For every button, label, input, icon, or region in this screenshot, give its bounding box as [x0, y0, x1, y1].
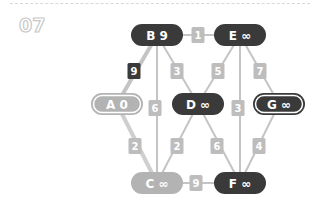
- node-f[interactable]: F ∞: [214, 172, 266, 194]
- edge-weight-a-b: 9: [128, 63, 141, 79]
- svg-text:3: 3: [174, 66, 181, 77]
- svg-text:C ∞: C ∞: [146, 177, 169, 191]
- node-c[interactable]: C ∞: [131, 172, 183, 194]
- svg-text:2: 2: [174, 141, 181, 152]
- edge-weight-b-d: 3: [171, 63, 184, 79]
- svg-text:3: 3: [235, 103, 242, 114]
- svg-text:5: 5: [215, 66, 222, 77]
- edge-weight-d-c: 2: [171, 138, 184, 154]
- edge-weight-e-d: 5: [212, 63, 225, 79]
- edge-weight-d-f: 6: [211, 138, 224, 154]
- edge-weight-b-c: 6: [149, 100, 162, 116]
- graph-nodes: B 9E ∞A 0D ∞G ∞C ∞F ∞: [91, 24, 305, 194]
- node-g[interactable]: G ∞: [253, 93, 305, 115]
- svg-text:1: 1: [195, 30, 202, 41]
- svg-text:4: 4: [256, 141, 263, 152]
- node-a[interactable]: A 0: [91, 93, 143, 115]
- edge-weight-a-c: 2: [129, 138, 142, 154]
- edge-weight-g-f: 4: [253, 138, 266, 154]
- node-e[interactable]: E ∞: [214, 24, 266, 46]
- edge-weight-e-g: 7: [254, 63, 267, 79]
- svg-text:A 0: A 0: [106, 98, 128, 112]
- svg-text:7: 7: [257, 66, 264, 77]
- edge-weight-c-f: 9: [190, 175, 203, 191]
- svg-text:9: 9: [193, 178, 200, 189]
- svg-text:E ∞: E ∞: [229, 29, 251, 43]
- edge-weight-e-f: 3: [232, 100, 245, 116]
- edge-weight-b-e: 1: [192, 27, 205, 43]
- node-b[interactable]: B 9: [131, 24, 183, 46]
- graph-diagram: 193653722649 B 9E ∞A 0D ∞G ∞C ∞F ∞: [0, 0, 314, 205]
- node-d[interactable]: D ∞: [172, 93, 224, 115]
- svg-text:F ∞: F ∞: [229, 177, 251, 191]
- svg-text:9: 9: [131, 66, 138, 77]
- svg-text:6: 6: [152, 103, 159, 114]
- svg-text:G ∞: G ∞: [267, 98, 291, 112]
- svg-text:2: 2: [132, 141, 139, 152]
- svg-text:6: 6: [214, 141, 221, 152]
- svg-text:D ∞: D ∞: [186, 98, 210, 112]
- svg-text:B 9: B 9: [146, 29, 168, 43]
